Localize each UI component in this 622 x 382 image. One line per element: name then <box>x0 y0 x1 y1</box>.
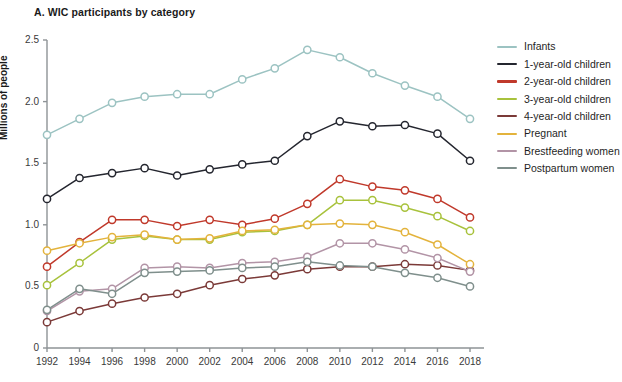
legend-item-label: Postpartum women <box>524 163 614 174</box>
data-point-marker <box>108 169 115 176</box>
x-tick-label: 2014 <box>388 356 422 367</box>
series-3-year-old-children <box>43 197 473 289</box>
data-point-marker <box>336 176 343 183</box>
legend-color-swatch <box>497 98 517 100</box>
data-point-marker <box>43 319 50 326</box>
data-point-marker <box>141 165 148 172</box>
data-point-marker <box>401 269 408 276</box>
series-2-year-old-children <box>43 176 473 271</box>
data-point-marker <box>206 267 213 274</box>
data-point-marker <box>271 65 278 72</box>
data-point-marker <box>206 235 213 242</box>
data-point-marker <box>401 187 408 194</box>
data-point-marker <box>434 254 441 261</box>
data-point-marker <box>239 76 246 83</box>
data-point-marker <box>466 261 473 268</box>
data-point-marker <box>336 54 343 61</box>
legend-item-postpartum-women[interactable]: Postpartum women <box>497 160 620 177</box>
data-point-marker <box>141 93 148 100</box>
data-point-marker <box>76 174 83 181</box>
data-point-marker <box>76 259 83 266</box>
legend-item-infants[interactable]: Infants <box>497 38 620 55</box>
legend-color-swatch <box>497 167 517 169</box>
data-point-marker <box>304 46 311 53</box>
legend-color-swatch <box>497 46 517 48</box>
data-point-marker <box>304 266 311 273</box>
legend-color-swatch <box>497 115 517 117</box>
x-tick-label: 2006 <box>258 356 292 367</box>
data-point-marker <box>141 231 148 238</box>
data-point-marker <box>76 307 83 314</box>
x-tick-label: 1992 <box>30 356 64 367</box>
data-point-marker <box>304 258 311 265</box>
data-point-marker <box>336 197 343 204</box>
data-point-marker <box>401 261 408 268</box>
data-point-marker <box>43 306 50 313</box>
data-point-marker <box>369 123 376 130</box>
data-point-marker <box>108 300 115 307</box>
data-point-marker <box>369 183 376 190</box>
x-tick-label: 1996 <box>95 356 129 367</box>
legend-item-4-year-old-children[interactable]: 4-year-old children <box>497 108 620 125</box>
legend-item-label: 3-year-old children <box>524 94 611 105</box>
y-tick-label: 1.0 <box>13 219 39 230</box>
x-tick-label: 2008 <box>290 356 324 367</box>
data-point-marker <box>174 268 181 275</box>
data-point-marker <box>434 213 441 220</box>
data-point-marker <box>76 285 83 292</box>
data-point-marker <box>369 263 376 270</box>
x-tick-label: 2012 <box>355 356 389 367</box>
x-tick-label: 1994 <box>63 356 97 367</box>
data-point-marker <box>466 157 473 164</box>
data-point-marker <box>401 229 408 236</box>
legend-color-swatch <box>497 150 517 152</box>
data-point-marker <box>108 99 115 106</box>
x-tick-label: 2004 <box>225 356 259 367</box>
data-point-marker <box>271 263 278 270</box>
data-point-marker <box>43 195 50 202</box>
data-point-marker <box>239 227 246 234</box>
legend-item-brestfeeding-women[interactable]: Brestfeeding women <box>497 142 620 159</box>
data-point-marker <box>108 234 115 241</box>
data-point-marker <box>401 82 408 89</box>
data-point-marker <box>434 93 441 100</box>
data-point-marker <box>206 282 213 289</box>
legend-item-pregnant[interactable]: Pregnant <box>497 125 620 142</box>
legend-color-swatch <box>497 63 517 65</box>
data-point-marker <box>271 272 278 279</box>
data-point-marker <box>434 241 441 248</box>
data-point-marker <box>401 121 408 128</box>
x-tick-label: 2000 <box>160 356 194 367</box>
data-point-marker <box>304 221 311 228</box>
data-point-marker <box>174 172 181 179</box>
data-point-marker <box>304 133 311 140</box>
data-point-marker <box>336 118 343 125</box>
data-point-marker <box>434 274 441 281</box>
data-point-marker <box>239 161 246 168</box>
data-point-marker <box>239 264 246 271</box>
legend-item-3-year-old-children[interactable]: 3-year-old children <box>497 90 620 107</box>
data-point-marker <box>108 216 115 223</box>
chart-legend: Infants1-year-old children2-year-old chi… <box>497 38 620 177</box>
data-point-marker <box>369 70 376 77</box>
y-tick-label: 1.5 <box>13 157 39 168</box>
data-point-marker <box>369 197 376 204</box>
data-point-marker <box>369 221 376 228</box>
data-point-marker <box>336 240 343 247</box>
legend-item-label: Pregnant <box>524 128 567 139</box>
legend-item-label: 4-year-old children <box>524 111 611 122</box>
data-point-marker <box>108 290 115 297</box>
legend-item-1-year-old-children[interactable]: 1-year-old children <box>497 55 620 72</box>
data-point-marker <box>43 131 50 138</box>
data-point-marker <box>174 222 181 229</box>
legend-item-2-year-old-children[interactable]: 2-year-old children <box>497 73 620 90</box>
y-tick-label: 0 <box>13 342 39 353</box>
data-point-marker <box>466 115 473 122</box>
data-point-marker <box>271 157 278 164</box>
x-tick-label: 2016 <box>420 356 454 367</box>
data-point-marker <box>43 247 50 254</box>
data-point-marker <box>434 262 441 269</box>
data-point-marker <box>466 283 473 290</box>
data-point-marker <box>271 215 278 222</box>
data-point-marker <box>434 130 441 137</box>
